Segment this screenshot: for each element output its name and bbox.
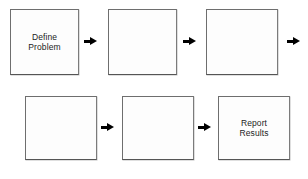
arrow-right-icon-5 [204,123,211,131]
process-flow-diagram: Define Problem Report Results [0,0,308,179]
process-box-label: Report Results [239,118,268,139]
process-box-empty-4[interactable] [25,96,97,160]
arrow-right-icon-1 [90,37,97,45]
arrow-right-icon-2 [189,37,196,45]
process-box-empty-5[interactable] [122,96,194,160]
process-box-empty-2[interactable] [108,9,177,75]
arrow-right-icon-3 [293,37,300,45]
process-box-label: Define Problem [28,32,60,53]
process-box-report-results[interactable]: Report Results [218,96,290,160]
process-box-define-problem[interactable]: Define Problem [10,9,79,75]
arrow-right-icon-4 [107,123,114,131]
process-box-empty-3[interactable] [206,9,278,75]
